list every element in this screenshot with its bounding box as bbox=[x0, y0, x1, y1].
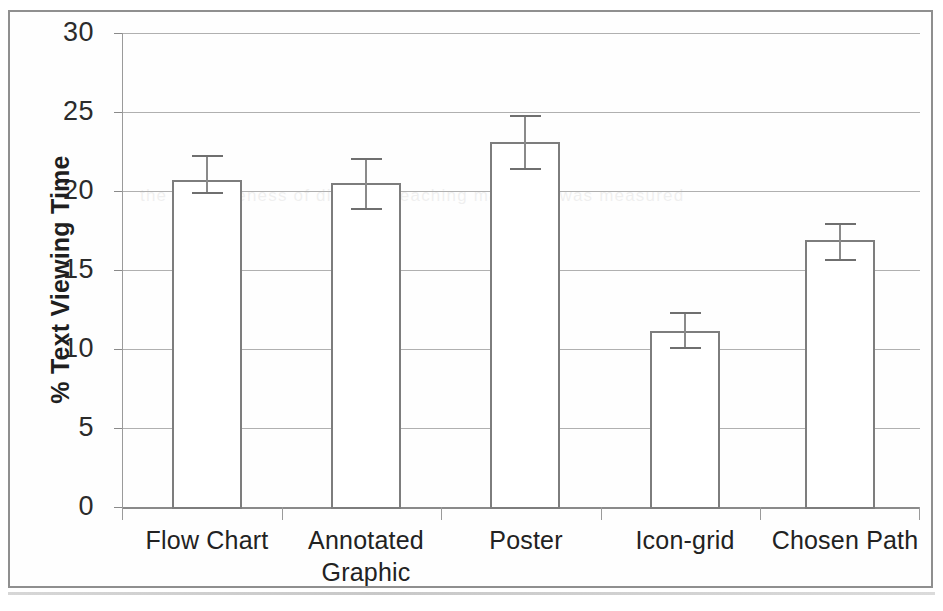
y-axis-title: % Text Viewing Time bbox=[46, 70, 75, 490]
x-label-line: Graphic bbox=[286, 556, 446, 588]
y-axis-line bbox=[122, 33, 123, 508]
errorbar-cap-top-annotated-graphic bbox=[351, 158, 382, 160]
chart-page: the effectiveness of different teaching … bbox=[0, 0, 943, 611]
x-label-annotated-graphic: Annotated Graphic bbox=[286, 524, 446, 588]
errorbar-line-poster bbox=[524, 115, 526, 169]
x-category-tick-3 bbox=[601, 507, 602, 520]
errorbar-cap-bottom-annotated-graphic bbox=[351, 208, 382, 210]
x-label-icon-grid: Icon-grid bbox=[605, 524, 765, 556]
errorbar-cap-top-chosen-path bbox=[825, 223, 856, 225]
x-label-poster: Poster bbox=[446, 524, 606, 556]
bar-flow-chart[interactable] bbox=[172, 180, 242, 509]
plot-area: the effectiveness of different teaching … bbox=[0, 0, 943, 611]
x-label-flow-chart: Flow Chart bbox=[127, 524, 287, 556]
x-category-tick-0 bbox=[122, 507, 123, 520]
errorbar-cap-top-flow-chart bbox=[192, 155, 223, 157]
bar-chosen-path[interactable] bbox=[805, 240, 875, 509]
errorbar-cap-bottom-poster bbox=[510, 168, 541, 170]
bar-icon-grid[interactable] bbox=[650, 331, 720, 509]
bar-poster[interactable] bbox=[490, 142, 560, 509]
errorbar-line-icon-grid bbox=[684, 312, 686, 348]
ytick-label-0: 0 bbox=[24, 493, 94, 520]
ytick-label-30: 30 bbox=[24, 19, 94, 46]
x-label-line: Poster bbox=[446, 524, 606, 556]
errorbar-line-annotated-graphic bbox=[365, 158, 367, 209]
x-label-line: Icon-grid bbox=[605, 524, 765, 556]
x-category-tick-4 bbox=[760, 507, 761, 520]
x-category-tick-5 bbox=[919, 507, 920, 520]
x-category-tick-1 bbox=[282, 507, 283, 520]
x-label-line: Flow Chart bbox=[127, 524, 287, 556]
gridline-30 bbox=[122, 33, 920, 34]
errorbar-cap-bottom-flow-chart bbox=[192, 192, 223, 194]
errorbar-cap-top-icon-grid bbox=[670, 312, 701, 314]
bar-annotated-graphic[interactable] bbox=[331, 183, 401, 509]
gridline-25 bbox=[122, 112, 920, 113]
x-label-line: Annotated bbox=[286, 524, 446, 556]
errorbar-line-chosen-path bbox=[839, 223, 841, 261]
x-label-line: Chosen Path bbox=[763, 524, 927, 556]
x-category-tick-2 bbox=[441, 507, 442, 520]
errorbar-cap-top-poster bbox=[510, 115, 541, 117]
errorbar-cap-bottom-chosen-path bbox=[825, 259, 856, 261]
errorbar-cap-bottom-icon-grid bbox=[670, 347, 701, 349]
x-label-chosen-path: Chosen Path bbox=[763, 524, 927, 556]
errorbar-line-flow-chart bbox=[206, 155, 208, 193]
